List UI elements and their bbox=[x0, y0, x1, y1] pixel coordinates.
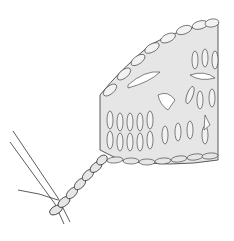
crochet-drawing bbox=[0, 0, 234, 241]
chain-stitches bbox=[48, 153, 109, 217]
crochet-illustration bbox=[0, 0, 234, 241]
